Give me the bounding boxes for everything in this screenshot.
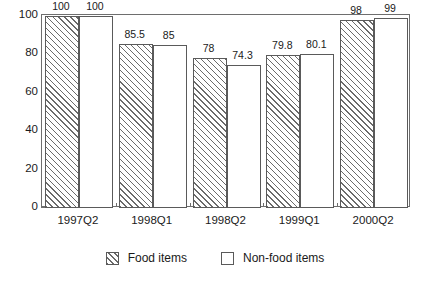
bar bbox=[153, 45, 187, 208]
x-axis-label: 1998Q2 bbox=[189, 214, 263, 226]
bar-value-label: 74.3 bbox=[218, 50, 268, 61]
x-axis-label: 1997Q2 bbox=[41, 214, 115, 226]
bar bbox=[266, 55, 300, 208]
y-axis-tick-label: 20 bbox=[0, 163, 38, 175]
hatched-square-icon bbox=[106, 252, 119, 265]
y-axis-tick-label: 40 bbox=[0, 124, 38, 136]
bar-value-label: 100 bbox=[70, 1, 120, 12]
bar bbox=[300, 54, 334, 208]
x-axis-label: 1999Q1 bbox=[262, 214, 336, 226]
x-axis-label: 2000Q2 bbox=[336, 214, 410, 226]
bar-value-label: 80.1 bbox=[291, 39, 341, 50]
bar bbox=[79, 16, 113, 208]
y-axis-tick-label: 0 bbox=[0, 201, 38, 213]
legend-label: Non-food items bbox=[243, 252, 324, 265]
bar-value-label: 85 bbox=[144, 30, 194, 41]
x-axis-tick-mark bbox=[190, 203, 191, 207]
bar bbox=[340, 20, 374, 208]
x-axis-tick-mark bbox=[116, 203, 117, 207]
bar bbox=[193, 58, 227, 208]
x-axis-label: 1998Q1 bbox=[115, 214, 189, 226]
legend-item-food-items: Food items bbox=[106, 252, 187, 265]
bar bbox=[374, 18, 408, 208]
bar-chart-figure: 020406080100 10010085.5857874.379.880.19… bbox=[0, 0, 430, 294]
empty-square-icon bbox=[221, 252, 234, 265]
bar bbox=[227, 65, 261, 208]
legend-label: Food items bbox=[128, 252, 187, 265]
x-axis-tick-mark bbox=[263, 203, 264, 207]
bar-value-label: 99 bbox=[365, 3, 415, 14]
bar bbox=[45, 16, 79, 208]
x-axis-tick-mark bbox=[337, 203, 338, 207]
legend-item-non-food-items: Non-food items bbox=[221, 252, 324, 265]
y-axis-tick-label: 60 bbox=[0, 86, 38, 98]
y-axis-tick-label: 80 bbox=[0, 47, 38, 59]
chart-legend: Food items Non-food items bbox=[0, 252, 430, 265]
y-axis-tick-label: 100 bbox=[0, 9, 38, 21]
bar bbox=[119, 44, 153, 208]
